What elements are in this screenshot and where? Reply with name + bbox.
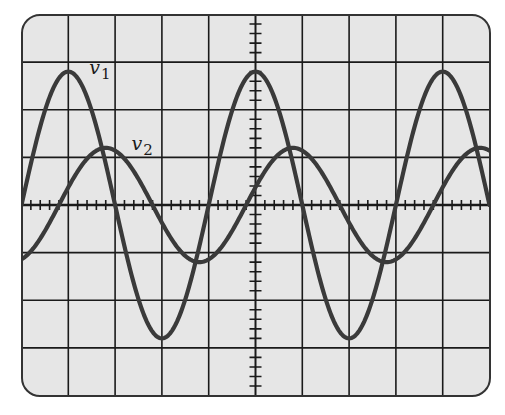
v2-label-main: v <box>131 132 142 154</box>
v1-label-subscript: 1 <box>101 65 111 83</box>
v1-label-main: v <box>89 56 100 78</box>
v2-label-subscript: 2 <box>143 141 153 159</box>
oscilloscope-screen: v1 v2 <box>0 0 505 415</box>
